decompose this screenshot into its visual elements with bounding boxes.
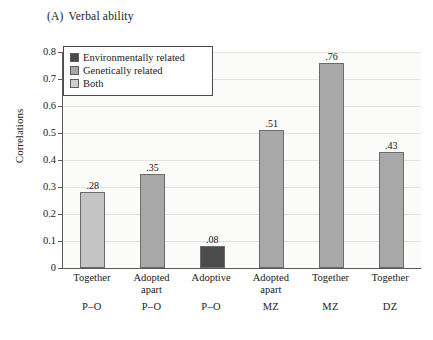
x-axis-group-line2: DZ <box>360 301 420 313</box>
x-axis-group-line1: Adopted apart <box>122 272 182 295</box>
bar: .08 <box>200 246 225 268</box>
bar: .51 <box>259 130 284 268</box>
y-axis-tick-label: 0.6 <box>43 101 56 112</box>
bar: .35 <box>140 174 165 269</box>
x-axis-group-label: AdoptiveP–O <box>181 272 241 312</box>
bar-value-label: .43 <box>385 141 398 151</box>
y-axis-tick-label: 0.2 <box>43 209 56 220</box>
x-axis-group-line1: Adopted apart <box>241 272 301 295</box>
x-axis-group-line1: Together <box>301 272 361 284</box>
bar-value-label: .28 <box>87 181 100 191</box>
y-axis-tick-label: 0.3 <box>43 182 56 193</box>
y-axis-tick <box>58 133 63 134</box>
x-axis-group-line1: Together <box>360 272 420 284</box>
gridline <box>63 214 421 215</box>
x-axis-group-line2: MZ <box>301 301 361 313</box>
x-axis-group-label: TogetherP–O <box>62 272 122 312</box>
legend-item-label: Environmentally related <box>83 52 185 63</box>
y-axis-tick <box>58 268 63 269</box>
x-axis-group-label: Adopted apartMZ <box>241 272 301 313</box>
x-axis-group-line2: P–O <box>181 301 241 313</box>
panel-title-text: Verbal ability <box>69 10 134 22</box>
legend-item: Both <box>70 77 206 90</box>
y-axis-tick <box>58 214 63 215</box>
gridline <box>63 133 421 134</box>
legend-item: Genetically related <box>70 64 206 77</box>
legend-item: Environmentally related <box>70 51 206 64</box>
y-axis-tick-label: 0.5 <box>43 128 56 139</box>
y-axis-tick <box>58 160 63 161</box>
legend-item-label: Both <box>83 78 103 89</box>
bar-value-label: .35 <box>146 163 159 173</box>
legend-swatch-icon <box>70 53 79 62</box>
y-axis-tick <box>58 106 63 107</box>
y-axis-tick <box>58 187 63 188</box>
y-axis-tick <box>58 241 63 242</box>
bar: .76 <box>319 63 344 268</box>
x-axis-group-line2: P–O <box>122 301 182 313</box>
legend-item-label: Genetically related <box>83 65 163 76</box>
x-axis-group-label: Adopted apartP–O <box>122 272 182 313</box>
x-axis-group-line2: P–O <box>62 301 122 313</box>
gridline <box>63 160 421 161</box>
gridline <box>63 187 421 188</box>
bar-value-label: .51 <box>266 119 279 129</box>
bar: .28 <box>80 192 105 268</box>
bar-value-label: .76 <box>325 52 338 62</box>
bar-value-label: .08 <box>206 235 219 245</box>
y-axis-tick-label: 0 <box>51 263 56 274</box>
gridline <box>63 106 421 107</box>
y-axis-tick-label: 0.1 <box>43 236 56 247</box>
x-axis-group-label: TogetherDZ <box>360 272 420 312</box>
bar: .43 <box>379 152 404 268</box>
panel-tag: (A) <box>47 10 64 22</box>
y-axis-label: Correlations <box>13 76 25 196</box>
bar-chart-figure: (A)Verbal ability Correlations 0.80.70.6… <box>0 0 433 340</box>
y-axis-tick-label: 0.8 <box>43 47 56 58</box>
x-axis-group-line1: Together <box>62 272 122 284</box>
x-axis-group-line2: MZ <box>241 301 301 313</box>
y-axis-tick-label: 0.7 <box>43 74 56 85</box>
legend-swatch-icon <box>70 79 79 88</box>
x-axis-group-label: TogetherMZ <box>301 272 361 312</box>
page-title: (A)Verbal ability <box>47 10 134 22</box>
y-axis-tick-label: 0.4 <box>43 155 56 166</box>
x-axis-group-line1: Adoptive <box>181 272 241 284</box>
chart-legend: Environmentally relatedGenetically relat… <box>63 46 213 96</box>
gridline <box>63 241 421 242</box>
legend-swatch-icon <box>70 66 79 75</box>
